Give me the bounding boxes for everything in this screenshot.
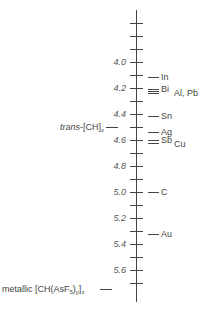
marker-ag — [148, 132, 159, 133]
tick-4-5 — [130, 127, 143, 128]
tick-label-5-2: 5.2 — [96, 213, 126, 223]
label-bi: Bi — [161, 84, 169, 94]
tick-5-0 — [130, 192, 143, 193]
tick-5-7 — [130, 283, 143, 284]
tick-label-4-2: 4.2 — [96, 83, 126, 93]
tick-label-5-4: 5.4 — [96, 239, 126, 249]
tick-4-8 — [130, 166, 143, 167]
tick-4-6 — [130, 140, 143, 141]
marker-al — [148, 91, 159, 92]
metallic-formula-a: metallic [CH(AsF — [2, 284, 70, 294]
tick-label-4-4: 4.4 — [96, 109, 126, 119]
marker-in — [148, 77, 159, 78]
tick-5-4 — [130, 244, 143, 245]
tick-5-1 — [130, 205, 143, 206]
tick-4-1 — [130, 75, 143, 76]
trans-prefix: trans — [60, 122, 80, 132]
marker-sn — [148, 116, 159, 117]
tick-4-0 — [130, 62, 143, 63]
label-in: In — [161, 72, 169, 82]
label-metallic-doped-polyacetylene: metallic [CH(AsF5)y]x — [2, 284, 84, 297]
marker-bi — [148, 89, 159, 90]
label-sb: Sb — [161, 135, 172, 145]
tick-3-8 — [130, 36, 143, 37]
tick-label-4-8: 4.8 — [96, 161, 126, 171]
trans-subscript: x — [101, 127, 104, 133]
label-au: Au — [161, 229, 172, 239]
label-c: C — [161, 187, 168, 197]
marker-trans-polyacetylene — [106, 127, 118, 128]
tick-4-9 — [130, 179, 143, 180]
tick-5-6 — [130, 270, 143, 271]
label-al-pb: Al, Pb — [174, 88, 198, 98]
tick-3-9 — [130, 49, 143, 50]
tick-label-4-0: 4.0 — [96, 57, 126, 67]
marker-sb — [148, 140, 159, 141]
metallic-sub-x: x — [81, 289, 84, 295]
tick-label-4-6: 4.6 — [96, 135, 126, 145]
label-trans-polyacetylene: trans-[CH]x — [30, 122, 104, 135]
marker-c — [148, 192, 159, 193]
tick-4-3 — [130, 101, 143, 102]
tick-4-2 — [130, 88, 143, 89]
tick-label-5-0: 5.0 — [96, 187, 126, 197]
tick-5-2 — [130, 218, 143, 219]
marker-au — [148, 234, 159, 235]
vertical-axis-line — [136, 10, 137, 302]
label-cu: Cu — [174, 139, 186, 149]
tick-3-7 — [130, 23, 143, 24]
marker-metallic-doped-polyacetylene — [100, 289, 112, 290]
tick-label-5-6: 5.6 — [96, 265, 126, 275]
marker-pb — [148, 93, 159, 94]
label-sn: Sn — [161, 111, 172, 121]
tick-5-5 — [130, 257, 143, 258]
tick-4-7 — [130, 153, 143, 154]
tick-5-3 — [130, 231, 143, 232]
marker-cu — [148, 143, 159, 144]
trans-formula: -[CH] — [80, 122, 101, 132]
tick-4-4 — [130, 114, 143, 115]
